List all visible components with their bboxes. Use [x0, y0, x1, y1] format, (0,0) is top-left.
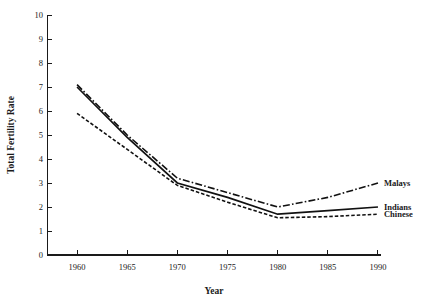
- y-tick-label: 6: [39, 106, 43, 116]
- y-tick-label: 9: [39, 34, 43, 44]
- y-tick-label: 4: [39, 154, 44, 164]
- x-tick-label: 1980: [269, 262, 286, 272]
- series-line-chinese: [77, 113, 378, 217]
- y-tick-label: 8: [39, 58, 43, 68]
- series-line-indians: [77, 87, 378, 214]
- x-tick-label: 1965: [119, 262, 136, 272]
- series-label-malays: Malays: [384, 178, 411, 188]
- series-label-chinese: Chinese: [384, 209, 413, 219]
- y-tick-label: 5: [39, 130, 43, 140]
- chart-canvas: 0123456789101960196519701975198019851990…: [0, 0, 430, 307]
- y-tick-label: 3: [39, 178, 43, 188]
- x-tick-label: 1970: [169, 262, 186, 272]
- y-tick-label: 0: [39, 250, 43, 260]
- x-axis-title: Year: [205, 286, 225, 296]
- y-tick-label: 1: [39, 226, 43, 236]
- x-tick-label: 1985: [319, 262, 336, 272]
- y-axis-title: Total Fertility Rate: [6, 96, 16, 174]
- x-tick-label: 1990: [369, 262, 386, 272]
- y-tick-label: 10: [35, 10, 44, 20]
- x-tick-label: 1960: [69, 262, 86, 272]
- y-tick-label: 7: [39, 82, 43, 92]
- x-tick-label: 1975: [219, 262, 236, 272]
- y-tick-label: 2: [39, 202, 43, 212]
- fertility-rate-chart: 0123456789101960196519701975198019851990…: [0, 0, 430, 307]
- top-caption: [120, 0, 400, 6]
